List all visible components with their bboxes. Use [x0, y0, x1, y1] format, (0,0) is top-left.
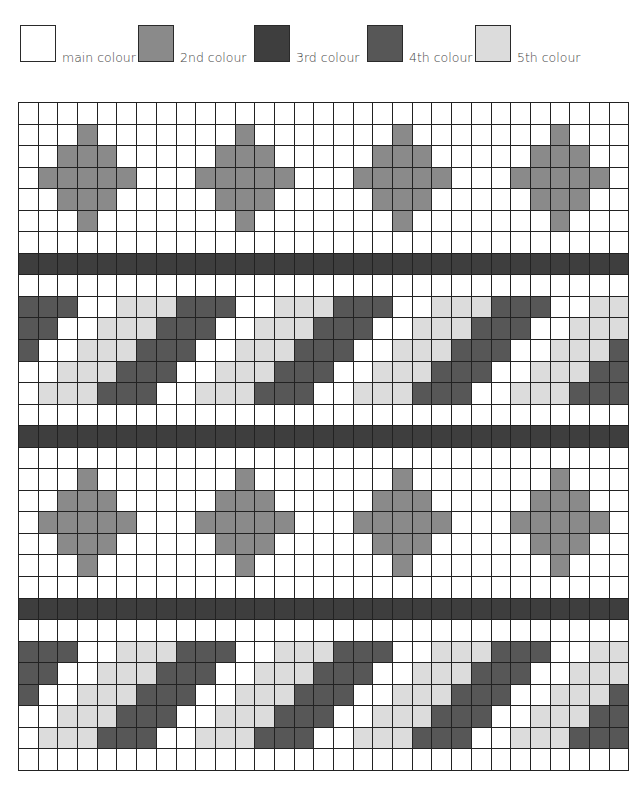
chart-cell	[431, 317, 451, 339]
chart-cell	[136, 274, 156, 296]
chart-cell	[18, 748, 38, 770]
chart-cell	[609, 447, 629, 469]
chart-cell	[530, 274, 550, 296]
chart-cell	[333, 145, 353, 167]
colour-legend: main colour 2nd colour 3rd colour 4th co…	[0, 0, 644, 80]
chart-cell	[57, 296, 77, 318]
chart-cell	[294, 361, 314, 383]
chart-cell	[77, 361, 97, 383]
chart-cell	[97, 554, 117, 576]
chart-cell	[195, 684, 215, 706]
chart-cell	[235, 339, 255, 361]
chart-cell	[176, 727, 196, 749]
chart-cell	[609, 124, 629, 146]
chart-cell	[77, 274, 97, 296]
chart-cell	[550, 382, 570, 404]
chart-cell	[195, 339, 215, 361]
chart-cell	[353, 274, 373, 296]
chart-cell	[274, 145, 294, 167]
chart-cell	[510, 490, 530, 512]
chart-cell	[215, 748, 235, 770]
chart-cell	[254, 490, 274, 512]
chart-cell	[97, 684, 117, 706]
chart-cell	[333, 210, 353, 232]
chart-cell	[254, 167, 274, 189]
chart-cell	[294, 447, 314, 469]
chart-cell	[491, 210, 511, 232]
chart-cell	[156, 554, 176, 576]
chart-cell	[97, 145, 117, 167]
chart-cell	[38, 102, 58, 124]
chart-cell	[471, 274, 491, 296]
chart-cell	[530, 598, 550, 620]
chart-cell	[97, 641, 117, 663]
chart-cell	[510, 727, 530, 749]
chart-cell	[451, 382, 471, 404]
chart-cell	[195, 382, 215, 404]
chart-cell	[589, 554, 609, 576]
chart-cell	[57, 231, 77, 253]
chart-cell	[156, 210, 176, 232]
chart-cell	[491, 361, 511, 383]
chart-cell	[77, 425, 97, 447]
chart-cell	[97, 662, 117, 684]
chart-cell	[294, 748, 314, 770]
chart-cell	[116, 468, 136, 490]
chart-cell	[589, 339, 609, 361]
chart-cell	[215, 490, 235, 512]
chart-cell	[235, 274, 255, 296]
chart-cell	[569, 641, 589, 663]
chart-cell	[176, 490, 196, 512]
chart-cell	[156, 296, 176, 318]
chart-cell	[156, 684, 176, 706]
chart-cell	[491, 748, 511, 770]
chart-cell	[215, 468, 235, 490]
chart-cell	[609, 748, 629, 770]
chart-cell	[412, 361, 432, 383]
chart-cell	[510, 274, 530, 296]
chart-cell	[353, 727, 373, 749]
chart-cell	[510, 641, 530, 663]
chart-cell	[57, 361, 77, 383]
chart-cell	[550, 188, 570, 210]
chart-cell	[176, 447, 196, 469]
chart-cell	[392, 533, 412, 555]
chart-cell	[313, 296, 333, 318]
chart-cell	[412, 253, 432, 275]
chart-cell	[274, 253, 294, 275]
chart-cell	[176, 533, 196, 555]
chart-cell	[353, 447, 373, 469]
chart-cell	[57, 167, 77, 189]
chart-cell	[609, 641, 629, 663]
chart-cell	[235, 533, 255, 555]
chart-cell	[77, 317, 97, 339]
chart-cell	[510, 102, 530, 124]
chart-cell	[491, 167, 511, 189]
chart-cell	[471, 339, 491, 361]
chart-cell	[215, 554, 235, 576]
chart-cell	[215, 210, 235, 232]
chart-cell	[333, 296, 353, 318]
chart-cell	[156, 748, 176, 770]
chart-cell	[451, 339, 471, 361]
chart-cell	[195, 210, 215, 232]
chart-cell	[294, 576, 314, 598]
chart-cell	[372, 490, 392, 512]
chart-cell	[372, 274, 392, 296]
chart-cell	[392, 619, 412, 641]
chart-cell	[18, 188, 38, 210]
chart-cell	[235, 705, 255, 727]
chart-cell	[313, 727, 333, 749]
chart-cell	[116, 748, 136, 770]
chart-cell	[215, 145, 235, 167]
chart-cell	[195, 727, 215, 749]
chart-cell	[116, 274, 136, 296]
chart-cell	[471, 576, 491, 598]
chart-cell	[116, 188, 136, 210]
chart-cell	[18, 102, 38, 124]
chart-cell	[609, 619, 629, 641]
chart-cell	[18, 339, 38, 361]
chart-cell	[77, 210, 97, 232]
chart-cell	[491, 188, 511, 210]
chart-cell	[313, 598, 333, 620]
